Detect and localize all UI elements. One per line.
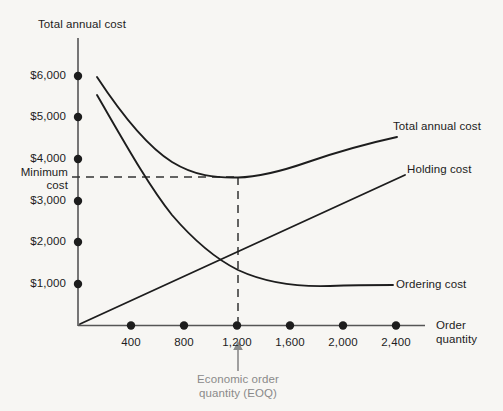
y-tick-dot-3000 [74,197,82,205]
y-tick-dot-1000 [74,280,82,288]
y-tick-dot-4000 [74,155,82,163]
y-tick-label-3000: $3,000 [0,194,66,208]
y-tick-label-2000: $2,000 [0,235,66,249]
y-tick-label-4000: $4,000 [0,152,66,166]
x-tick-dot-2000 [339,321,347,329]
holding-cost-line [80,175,405,324]
x-tick-label-2000: 2,000 [313,336,373,350]
y-axis-title: Total annual cost [38,18,126,32]
y-tick-dot-2000 [74,238,82,246]
ordering-cost-line [97,95,393,286]
series-label-total-annual-cost: Total annual cost [393,120,481,134]
minimum-cost-label-line2: cost [0,179,68,192]
eoq-chart: Total annual cost $6,000 $5,000 $4,000 $… [0,0,503,411]
total-annual-cost-line [97,77,397,178]
x-tick-label-1600: 1,600 [260,336,320,350]
x-tick-dot-400 [127,321,135,329]
x-tick-dot-2400 [392,321,400,329]
y-tick-label-5000: $5,000 [0,110,66,124]
x-axis-title-line2: quantity [436,333,477,347]
eoq-annotation-line2: quantity (EOQ) [168,386,308,400]
x-tick-label-800: 800 [154,336,214,350]
x-tick-label-400: 400 [101,336,161,350]
y-tick-dot-5000 [74,113,82,121]
eoq-annotation-line1: Economic order [168,372,308,386]
series-label-ordering-cost: Ordering cost [396,278,466,292]
y-tick-label-6000: $6,000 [0,69,66,83]
x-tick-label-1200: 1,200 [207,336,267,350]
series-label-holding-cost: Holding cost [407,163,471,177]
y-tick-dot-6000 [74,72,82,80]
x-tick-dot-1600 [286,321,294,329]
minimum-cost-label-line1: Minimum [0,166,68,179]
x-tick-dot-800 [180,321,188,329]
y-tick-label-1000: $1,000 [0,277,66,291]
x-tick-label-2400: 2,400 [366,336,426,350]
x-tick-dot-1200 [233,321,241,329]
x-axis-title-line1: Order [436,319,466,333]
